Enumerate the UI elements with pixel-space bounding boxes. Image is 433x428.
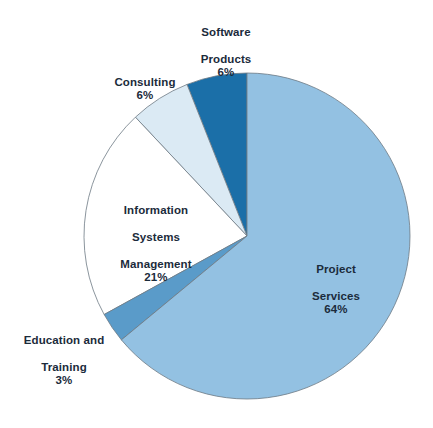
pie-slice-group [84, 73, 410, 399]
pie-chart-canvas [0, 0, 433, 428]
pie-chart: Software Products 6% Consulting 6% Infor… [0, 0, 433, 428]
